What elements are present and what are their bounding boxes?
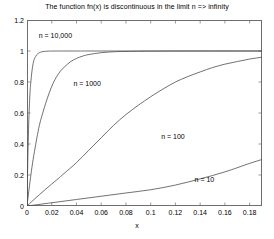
figure-canvas: The function fn(x) is discontinuous in t… — [0, 0, 274, 239]
x-tick-label: 0.14 — [193, 209, 207, 216]
chart-title: The function fn(x) is discontinuous in t… — [0, 3, 274, 10]
x-axis-tick-labels: 00.020.040.060.080.10.120.140.160.18 — [27, 209, 262, 221]
curve-label: n = 100 — [161, 133, 185, 140]
y-tick-label: 0 — [20, 203, 24, 210]
y-tick-label: 0.6 — [14, 110, 24, 117]
x-tick-label: 0.04 — [70, 209, 84, 216]
y-tick-label: 0.2 — [14, 172, 24, 179]
plot-area: n = 10,000n = 1000n = 100n = 10 — [27, 20, 262, 206]
x-tick-label: 0.12 — [169, 209, 183, 216]
y-tick-label: 0.8 — [14, 79, 24, 86]
x-tick-label: 0.18 — [243, 209, 257, 216]
y-axis-tick-labels: 00.20.40.60.811.2 — [0, 20, 24, 206]
x-tick-label: 0 — [25, 209, 29, 216]
x-tick-label: 0.08 — [119, 209, 133, 216]
curve-line — [27, 51, 262, 206]
curve-label: n = 10,000 — [39, 32, 72, 39]
x-tick-label: 0.16 — [218, 209, 232, 216]
x-axis-label: x — [0, 222, 274, 229]
y-tick-label: 0.4 — [14, 141, 24, 148]
x-tick-label: 0.06 — [94, 209, 108, 216]
curve-line — [27, 160, 262, 207]
curve-line — [27, 57, 262, 206]
curve-label: n = 10 — [195, 176, 215, 183]
x-tick-label: 0.02 — [45, 209, 59, 216]
y-tick-label: 1 — [20, 48, 24, 55]
x-tick-label: 0.1 — [146, 209, 156, 216]
curve-label: n = 1000 — [73, 80, 100, 87]
curves-layer — [27, 20, 262, 206]
curve-line — [27, 51, 262, 206]
y-tick-label: 1.2 — [14, 17, 24, 24]
